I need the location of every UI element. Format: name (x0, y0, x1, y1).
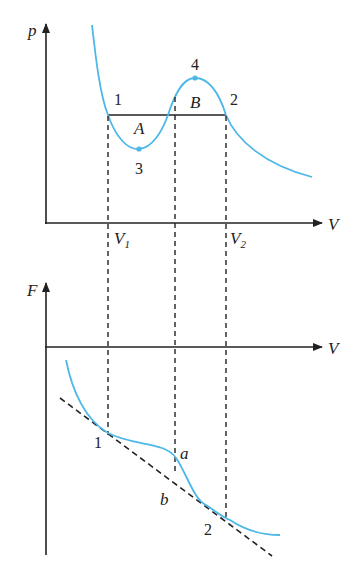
bottom-plot: F V 1 2 a b (26, 281, 341, 556)
p-axis-label: p (27, 21, 37, 40)
top-plot: p V 1 2 3 4 A B V1 V2 (27, 21, 341, 250)
point-3-marker (136, 146, 141, 151)
isotherm-curve (92, 25, 312, 177)
v1-label: V1 (114, 229, 130, 250)
region-a-label: A (133, 119, 145, 138)
f-point-2-label: 2 (204, 521, 212, 538)
point-1-label: 1 (114, 91, 122, 108)
point-4-label: 4 (191, 56, 199, 73)
point-b-label: b (160, 490, 169, 509)
pv-and-free-energy-diagram: p V 1 2 3 4 A B V1 V2 F V 1 2 a b (0, 0, 360, 587)
v-axis-label-bottom: V (328, 339, 341, 358)
v2-label: V2 (230, 229, 246, 250)
region-b-label: B (190, 93, 201, 112)
dashed-guides (108, 97, 226, 520)
v-axis-label-top: V (328, 215, 341, 234)
common-tangent (60, 398, 272, 556)
point-3-label: 3 (135, 160, 143, 177)
f-axis-label: F (26, 281, 38, 300)
f-point-1-label: 1 (94, 434, 102, 451)
point-2-label: 2 (230, 91, 238, 108)
point-4-marker (192, 75, 197, 80)
point-a-label: a (180, 444, 189, 463)
